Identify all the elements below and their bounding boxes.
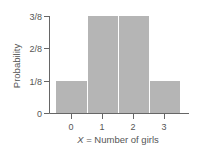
x-axis-title-rest: = Number of girls: [84, 134, 159, 145]
y-axis-title: Probability: [11, 44, 22, 89]
y-tick-label-0: 0: [37, 109, 42, 119]
bar-0: [56, 81, 87, 113]
bar-2: [119, 16, 149, 113]
probability-bar-chart: 0 1/8 2/8 3/8 Probability 0 1 2 3 X = Nu…: [0, 0, 197, 151]
y-tick-label-1: 1/8: [29, 77, 42, 87]
x-tick-label-0: 0: [68, 122, 73, 132]
x-axis-title: X = Number of girls: [76, 134, 159, 145]
x-tick-label-2: 2: [130, 122, 135, 132]
x-tick-label-1: 1: [99, 122, 104, 132]
bar-1: [88, 16, 118, 113]
y-tick-label-2: 2/8: [29, 44, 42, 54]
bar-3: [150, 81, 180, 113]
x-tick-label-3: 3: [161, 122, 166, 132]
y-tick-label-3: 3/8: [29, 12, 42, 22]
